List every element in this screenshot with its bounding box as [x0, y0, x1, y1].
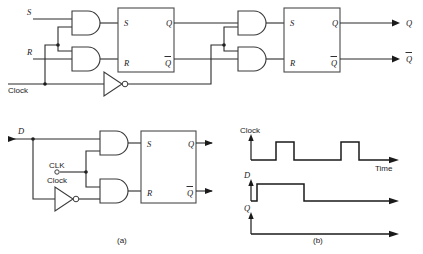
arrow-output-q [392, 20, 400, 27]
and-gate-slave-r [238, 47, 266, 71]
arrow-d-input [8, 136, 16, 142]
sr-latch-terminal-qbar: Q [187, 188, 193, 198]
inverter-d [55, 187, 79, 211]
inverter-clock [104, 72, 128, 96]
d-time-arrow [389, 198, 399, 204]
caption-b: (b) [313, 236, 323, 245]
clock-waveform [251, 142, 393, 160]
clock-terminal-dot [55, 170, 59, 174]
sr-latch-terminal-q: Q [188, 139, 194, 149]
clk-label: CLK [49, 161, 65, 170]
input-label-s: S [27, 7, 32, 17]
clock-time-arrow [389, 157, 399, 163]
slave-latch-terminal-q: Q [332, 18, 338, 28]
master-slave-flipflop: S Q R Q [8, 7, 412, 96]
junction-dot-clock [43, 82, 47, 86]
and-gate-s [100, 131, 128, 155]
d-flipflop: S Q R Q D CLK Clock [8, 126, 213, 211]
wire-clk-to-and-r [86, 172, 100, 187]
arrow-output-qbar [392, 56, 400, 63]
wire-clock-to-and-s [58, 27, 72, 45]
time-axis-label: Time [375, 164, 393, 173]
q-wave-label: Q [244, 203, 250, 213]
master-latch-terminal-r: R [123, 58, 130, 68]
and-gate-master-s [72, 11, 100, 35]
master-latch-terminal-qbar: Q [165, 58, 171, 68]
arrow-d-output-q [205, 140, 213, 146]
sr-latch-terminal-r: R [146, 188, 153, 198]
timing-diagram: Clock Time D Q [240, 126, 399, 237]
and-gate-master-r [72, 47, 100, 71]
d-clock-label: Clock [47, 176, 68, 185]
q-y-axis-arrow [248, 212, 253, 219]
input-label-clock: Clock [8, 86, 29, 95]
clock-wave-label: Clock [240, 126, 261, 135]
figure-root: S Q R Q [0, 0, 423, 254]
output-label-qbar: Q [406, 54, 412, 64]
wire-clock-branch [45, 45, 58, 84]
wire-inverted-clock [128, 45, 224, 84]
d-wave-label: D [243, 170, 251, 180]
master-latch-terminal-q: Q [166, 18, 172, 28]
master-latch-terminal-s: S [124, 18, 129, 28]
q-time-arrow [389, 231, 399, 237]
clock-y-axis-arrow [248, 134, 253, 141]
slave-latch-terminal-s: S [290, 18, 295, 28]
input-label-r: R [26, 47, 33, 57]
slave-latch-terminal-r: R [289, 58, 296, 68]
wire-clock-to-and-r [58, 45, 72, 51]
and-gate-slave-s [238, 11, 266, 35]
output-label-q: Q [406, 18, 412, 28]
d-waveform [251, 184, 393, 201]
arrow-d-output-qbar [205, 188, 213, 194]
caption-a: (a) [117, 236, 127, 245]
sr-latch-terminal-s: S [147, 139, 152, 149]
slave-latch-terminal-qbar: Q [331, 58, 337, 68]
wire-invclk-to-and-slave-s [224, 27, 238, 45]
d-y-axis-arrow [248, 179, 253, 186]
wire-invclk-to-and-slave-r [224, 45, 238, 51]
wire-clk-to-and-s [86, 151, 100, 172]
circuit-diagram-canvas: S Q R Q [0, 0, 423, 254]
and-gate-r [100, 179, 128, 203]
d-input-label: D [17, 126, 25, 136]
